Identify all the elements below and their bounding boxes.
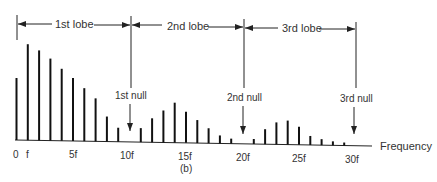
tick-10f: 10f bbox=[120, 150, 134, 161]
tick-15f: 15f bbox=[178, 151, 192, 162]
tick-0: 0 bbox=[13, 149, 19, 160]
tick-5f: 5f bbox=[69, 149, 78, 160]
tick-20f: 20f bbox=[236, 152, 250, 163]
spectral-lines bbox=[17, 44, 345, 145]
null1-label: 1st null bbox=[115, 90, 147, 101]
lobe3-label: 3rd lobe bbox=[282, 22, 322, 34]
lobe2-label: 2nd lobe bbox=[167, 20, 209, 32]
null3-label: 3rd null bbox=[340, 93, 373, 104]
lobe1-label: 1st lobe bbox=[55, 18, 94, 30]
tick-30f: 30f bbox=[345, 154, 359, 165]
frequency-axis-label: Frequency bbox=[380, 140, 432, 152]
tick-f: f bbox=[26, 149, 29, 160]
figure-caption: (b) bbox=[180, 163, 192, 174]
frequency-axis bbox=[15, 140, 372, 146]
spectrum-diagram: 1st lobe 2nd lobe 3rd lobe 1st null 2nd … bbox=[0, 0, 437, 182]
null2-label: 2nd null bbox=[227, 92, 262, 103]
tick-25f: 25f bbox=[292, 153, 306, 164]
